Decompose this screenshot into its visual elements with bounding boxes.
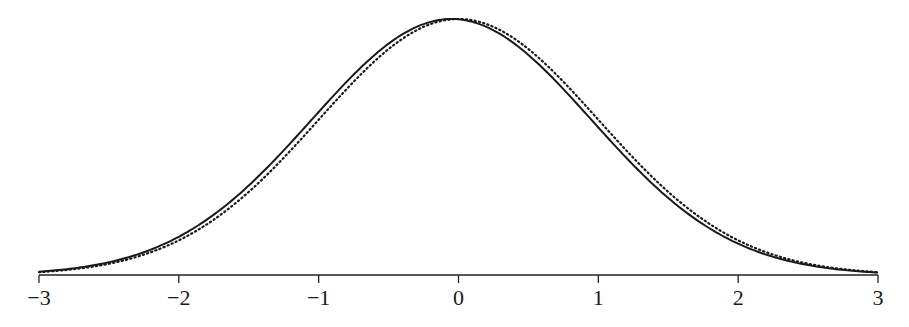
x-tick-label: −1 [307,285,330,310]
plot-area [39,19,878,273]
x-tick-label: −2 [167,285,190,310]
x-tick-label: 3 [873,285,884,310]
x-axis-ticks: −3−2−10123 [27,275,883,310]
x-tick-label: 0 [453,285,464,310]
x-tick-label: 1 [593,285,604,310]
density-chart: −3−2−10123 [0,0,909,327]
dotted-density-curve [39,19,878,272]
x-tick-label: 2 [733,285,744,310]
x-tick-label: −3 [27,285,50,310]
x-axis: −3−2−10123 [27,275,883,310]
solid-density-curve [39,19,878,273]
